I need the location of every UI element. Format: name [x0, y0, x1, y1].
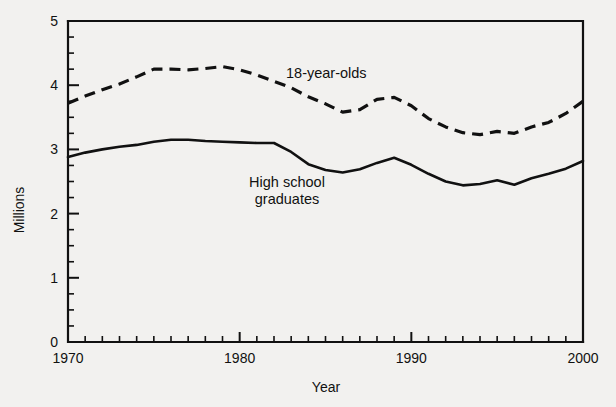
series-label-high-school-graduates-line1: High school [249, 174, 325, 190]
x-axis-title: Year [312, 379, 341, 395]
y-tick-label: 4 [50, 77, 58, 93]
y-axis-title: Millions [11, 187, 27, 234]
y-tick-label: 0 [50, 334, 58, 350]
y-tick-label: 5 [50, 13, 58, 29]
x-tick-label: 1990 [396, 350, 427, 366]
x-tick-label: 1970 [52, 350, 83, 366]
y-tick-label: 2 [50, 206, 58, 222]
x-tick-label: 2000 [567, 350, 598, 366]
series-label-high-school-graduates-line2: graduates [255, 191, 320, 207]
y-tick-label: 3 [50, 141, 58, 157]
line-chart: 012345 1970198019902000 Millions Year 18… [0, 0, 616, 407]
y-tick-label: 1 [50, 270, 58, 286]
series-label-18-year-olds: 18-year-olds [286, 65, 367, 81]
x-tick-label: 1980 [224, 350, 255, 366]
chart-figure: 012345 1970198019902000 Millions Year 18… [0, 0, 616, 407]
